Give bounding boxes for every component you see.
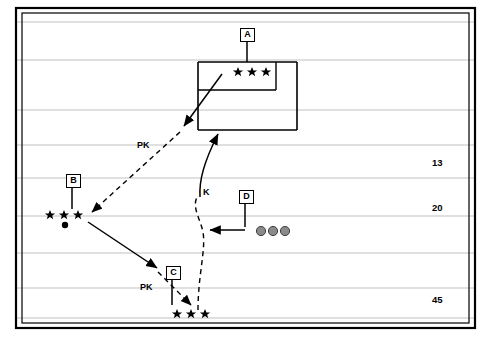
- pk-label-bottom: PK: [140, 283, 153, 292]
- yard-marker-45: 45: [432, 295, 443, 305]
- yard-marker-20: 20: [432, 203, 443, 213]
- page-background: [0, 0, 491, 342]
- play-diagram-canvas: [0, 0, 491, 342]
- pk-label-top: PK: [137, 141, 150, 150]
- k-label: K: [203, 188, 210, 197]
- marker-a-box[interactable]: A: [240, 28, 255, 42]
- marker-c-box[interactable]: C: [166, 266, 181, 280]
- marker-d-box[interactable]: D: [239, 190, 254, 204]
- marker-b-box[interactable]: B: [66, 174, 81, 188]
- dot-group-right: [256, 226, 289, 235]
- ball-dot-left: [62, 222, 68, 228]
- yard-marker-13: 13: [432, 158, 443, 168]
